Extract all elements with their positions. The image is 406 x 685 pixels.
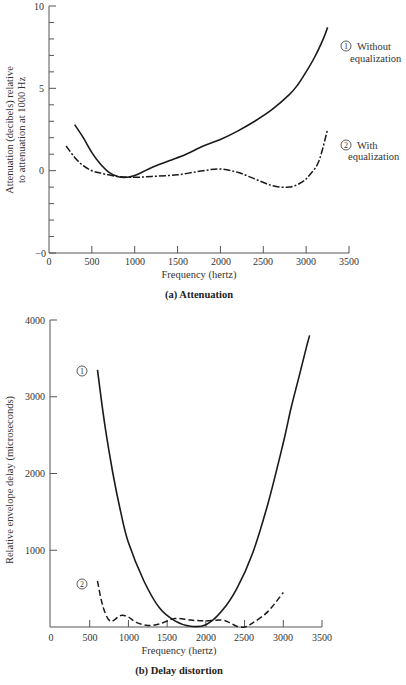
y-tick-label: 2000 <box>25 468 45 479</box>
caption-b: (b) Delay distortion <box>135 665 223 677</box>
x-tick-label: 2000 <box>211 256 231 267</box>
x-tick-label: 3000 <box>273 632 293 643</box>
chart-attenuation: 10 5 0 −0 0 500 1000 1500 2000 2500 3000… <box>4 1 402 301</box>
legend-with-equalization: 2 With equalization <box>341 140 400 162</box>
y-tick-label: 10 <box>34 1 44 12</box>
svg-text:2: 2 <box>80 580 84 589</box>
x-ticks-a <box>92 246 349 253</box>
svg-text:equalization: equalization <box>350 53 402 64</box>
svg-text:With: With <box>357 140 378 151</box>
chart-delay-distortion: 4000 3000 2000 1000 0 500 1000 1500 2000… <box>4 315 332 677</box>
svg-text:Relative envelope delay (micro: Relative envelope delay (microseconds) <box>4 395 16 564</box>
legend-without-equalization: 1 Without equalization <box>341 41 402 64</box>
x-tick-label: 500 <box>83 632 98 643</box>
marker-series-2: 2 <box>77 579 87 589</box>
marker-series-1: 1 <box>77 366 87 376</box>
svg-text:1: 1 <box>344 42 348 51</box>
y-tick-label: −0 <box>35 248 46 259</box>
y-ticks-a <box>49 6 56 253</box>
x-tick-label: 0 <box>49 632 54 643</box>
x-tick-label: 3500 <box>312 632 332 643</box>
svg-text:1: 1 <box>80 367 84 376</box>
x-tick-label: 3500 <box>339 256 359 267</box>
svg-text:Without: Without <box>357 41 391 52</box>
y-tick-label: 3000 <box>25 391 45 402</box>
x-tick-label: 1000 <box>119 632 139 643</box>
y-tick-label: 5 <box>39 83 44 94</box>
figure-canvas: 10 5 0 −0 0 500 1000 1500 2000 2500 3000… <box>0 0 406 685</box>
svg-text:to attenuation at 1000 Hz: to attenuation at 1000 Hz <box>16 77 27 183</box>
caption-a: (a) Attenuation <box>165 289 233 301</box>
x-tick-label: 2500 <box>253 256 273 267</box>
x-tick-label: 500 <box>85 256 100 267</box>
x-tick-label: 1500 <box>168 256 188 267</box>
x-axis-title-b: Frequency (hertz) <box>142 645 217 657</box>
series-without-equalization <box>75 27 328 177</box>
y-axis-title-b: Relative envelope delay (microseconds) <box>4 395 16 564</box>
series-with-equalization <box>66 130 328 188</box>
x-tick-label: 2000 <box>196 632 216 643</box>
y-tick-label: 4000 <box>25 315 45 326</box>
x-tick-label: 1000 <box>125 256 145 267</box>
y-tick-label: 1000 <box>25 545 45 556</box>
svg-text:Attenuation (decibels) relativ: Attenuation (decibels) relative <box>4 66 16 194</box>
svg-text:equalization: equalization <box>348 151 400 162</box>
x-tick-label: 3000 <box>296 256 316 267</box>
x-tick-label: 1500 <box>157 632 177 643</box>
x-axis-title-a: Frequency (hertz) <box>162 269 237 281</box>
series-with-equalization <box>98 581 284 627</box>
x-tick-label: 2500 <box>234 632 254 643</box>
y-ticks-b <box>50 320 57 550</box>
series-without-equalization <box>98 335 310 626</box>
svg-text:2: 2 <box>344 141 348 150</box>
y-axis-title-a: Attenuation (decibels) relative to atten… <box>4 66 27 194</box>
x-ticks-b <box>90 620 322 627</box>
y-tick-label: 0 <box>39 165 44 176</box>
x-tick-label: 0 <box>47 256 52 267</box>
